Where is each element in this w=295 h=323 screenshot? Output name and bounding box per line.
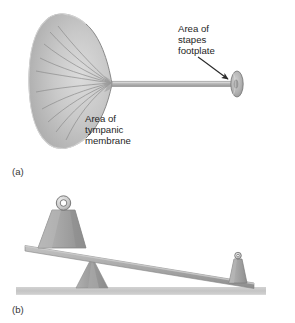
tympanic-membrane-label: Area of tympanic membrane: [85, 113, 131, 146]
panel-a: Area of stapes footplate Area of tympani…: [12, 14, 243, 177]
tympanic-label-line-1: Area of: [85, 113, 116, 124]
lever-beam: [25, 246, 254, 289]
ground-surface-shadow: [16, 293, 266, 295]
tympanic-label-line-3: membrane: [85, 135, 131, 146]
large-weight-ring: [56, 196, 70, 210]
ground-surface: [16, 287, 266, 294]
stapes-footplate-disc: [231, 71, 243, 97]
panel-b: (b): [12, 196, 266, 315]
small-weight: [229, 252, 247, 283]
tympanic-label-line-2: tympanic: [85, 124, 124, 135]
stapes-label-line-3: footplate: [178, 45, 215, 56]
connecting-rod: [112, 81, 234, 86]
stapes-pointer-arrow: [198, 57, 228, 79]
stapes-label-line-2: stapes: [178, 34, 206, 45]
panel-a-label: (a): [12, 166, 24, 177]
stapes-label-line-1: Area of: [178, 23, 209, 34]
small-weight-ring: [235, 252, 242, 259]
panel-b-label: (b): [12, 304, 24, 315]
large-weight: [38, 196, 86, 248]
figure-root: Area of stapes footplate Area of tympani…: [0, 0, 295, 323]
anatomy-lever-figure: Area of stapes footplate Area of tympani…: [0, 0, 295, 323]
stapes-footplate-label: Area of stapes footplate: [178, 23, 215, 56]
